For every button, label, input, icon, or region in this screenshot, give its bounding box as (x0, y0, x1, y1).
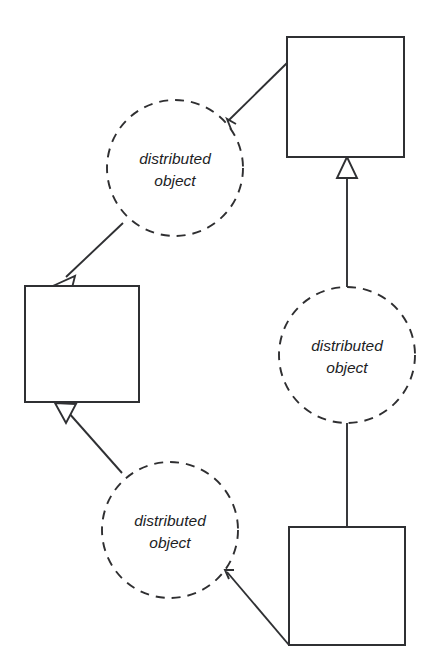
connector-boxbottomright-to-circle3[interactable] (225, 570, 289, 645)
uml-diagram: distributed object distributed object di… (0, 0, 430, 668)
dashed-circle-outline (102, 462, 238, 598)
hollow-triangle-arrow-icon (337, 157, 357, 178)
connector-elbow-tick (227, 119, 236, 129)
box-top-right[interactable] (287, 37, 404, 157)
circle-middle-right[interactable]: distributed object (279, 287, 415, 423)
connector-topright-to-circle1[interactable] (227, 63, 287, 129)
box-bottom-right[interactable] (289, 527, 405, 645)
connector-line-segment (66, 223, 123, 277)
class-box-rect (287, 37, 404, 157)
circle-label-line2: object (326, 359, 368, 376)
hollow-triangle-arrow-icon (55, 403, 76, 423)
circle-label-line2: object (154, 172, 196, 189)
connector-line-segment (229, 63, 287, 120)
diagram-canvas: distributed object distributed object di… (0, 0, 430, 668)
dashed-circle-outline (279, 287, 415, 423)
class-box-rect (289, 527, 405, 645)
connector-line-segment (227, 572, 289, 645)
circle-lower-left[interactable]: distributed object (102, 462, 238, 598)
circle-label-line1: distributed (139, 150, 212, 167)
circle-label-line1: distributed (134, 512, 207, 529)
connector-line-segment (68, 412, 122, 473)
circle-label-line1: distributed (311, 337, 384, 354)
class-box-rect (25, 286, 139, 402)
dashed-circle-outline (107, 100, 243, 236)
box-left[interactable] (25, 286, 139, 402)
connector-circle3-to-boxleft[interactable] (55, 403, 122, 473)
circle-upper-left[interactable]: distributed object (107, 100, 243, 236)
connector-circle2-to-boxtopright[interactable] (337, 157, 357, 287)
circle-label-line2: object (149, 534, 191, 551)
